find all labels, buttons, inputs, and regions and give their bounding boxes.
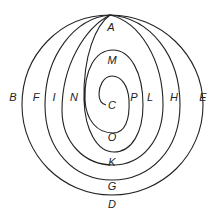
label-region-c: C [108,99,116,111]
label-region-i: I [52,91,55,103]
label-region-m: M [107,54,117,66]
label-region-l: L [147,91,153,103]
label-region-e: E [199,91,207,103]
label-region-a: A [106,21,114,33]
label-region-p: P [130,91,138,103]
spiral-region-diagram: A B C D E F G H I K L M N O P [0,0,216,218]
label-region-d: D [108,198,116,210]
label-region-h: H [170,91,178,103]
label-region-f: F [33,91,41,103]
label-region-o: O [108,131,117,143]
label-region-n: N [70,91,78,103]
label-region-g: G [108,180,117,192]
label-region-b: B [9,91,16,103]
label-region-k: K [108,156,116,168]
